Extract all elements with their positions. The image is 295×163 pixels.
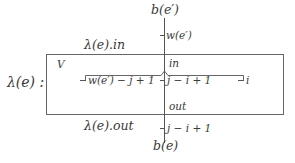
inner-tick-center-label: j − i + 1 <box>167 75 211 86</box>
inner-tick-right-label: i <box>246 75 249 86</box>
in-port-label: in <box>169 58 179 69</box>
top-node-label: b(e′) <box>151 4 179 17</box>
bottom-weight-label: j − i + 1 <box>167 123 211 134</box>
inner-tick-left-label: w(e′) − j + 1 <box>88 75 155 86</box>
out-port-label: out <box>169 101 186 112</box>
outer-lambda-label: λ(e) : <box>7 75 44 89</box>
top-weight-label: w(e′) <box>166 30 192 41</box>
in-edge-label: λ(e).in <box>84 39 125 52</box>
bottom-node-label: b(e) <box>153 140 178 153</box>
box-label-v: V <box>57 59 65 70</box>
out-edge-label: λ(e).out <box>84 120 134 133</box>
